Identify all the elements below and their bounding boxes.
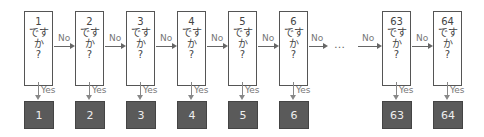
ellipsis: …	[334, 38, 347, 51]
question-text: 64	[441, 16, 454, 27]
yes-connector	[38, 82, 39, 96]
question-text: ?	[445, 49, 450, 60]
question-box: 5ですか?	[228, 11, 257, 86]
yes-connector	[447, 82, 448, 96]
no-label: No	[416, 33, 428, 43]
yes-connector	[140, 82, 141, 96]
yes-label: Yes	[245, 85, 260, 95]
yes-label: Yes	[41, 85, 56, 95]
question-text: です	[131, 27, 151, 38]
question-text: ?	[138, 49, 143, 60]
question-text: 1	[35, 16, 41, 27]
question-text: ?	[291, 49, 296, 60]
question-box: 4ですか?	[177, 11, 206, 86]
question-box: 3ですか?	[126, 11, 155, 86]
question-text: です	[80, 27, 100, 38]
arrow-down-icon	[393, 95, 399, 100]
question-text: です	[438, 27, 458, 38]
question-text: 4	[188, 16, 194, 27]
question-text: か	[85, 38, 95, 49]
question-box: 2ですか?	[75, 11, 104, 86]
question-text: ?	[240, 49, 245, 60]
answer-box: 1	[24, 101, 54, 129]
arrow-down-icon	[86, 95, 92, 100]
question-text: か	[289, 38, 299, 49]
question-text: 3	[137, 16, 143, 27]
no-label: No	[311, 33, 323, 43]
yes-label: Yes	[92, 85, 107, 95]
question-text: です	[29, 27, 49, 38]
yes-label: Yes	[450, 85, 465, 95]
question-text: か	[238, 38, 248, 49]
question-text: か	[187, 38, 197, 49]
yes-label: Yes	[399, 85, 414, 95]
answer-box: 5	[228, 101, 258, 129]
no-label: No	[109, 33, 121, 43]
question-text: か	[443, 38, 453, 49]
question-text: です	[387, 27, 407, 38]
question-text: 6	[290, 16, 296, 27]
question-box: 1ですか?	[24, 11, 53, 86]
no-label: No	[262, 33, 274, 43]
question-text: 63	[390, 16, 403, 27]
no-label: No	[160, 33, 172, 43]
question-text: ?	[189, 49, 194, 60]
question-text: か	[34, 38, 44, 49]
yes-connector	[242, 82, 243, 96]
arrow-down-icon	[137, 95, 143, 100]
question-text: です	[233, 27, 253, 38]
question-text: か	[392, 38, 402, 49]
question-text: です	[182, 27, 202, 38]
arrow-down-icon	[188, 95, 194, 100]
arrow-down-icon	[444, 95, 450, 100]
no-label: No	[211, 33, 223, 43]
answer-box: 64	[433, 101, 463, 129]
arrow-down-icon	[239, 95, 245, 100]
question-text: 5	[239, 16, 245, 27]
answer-box: 6	[279, 101, 309, 129]
yes-label: Yes	[194, 85, 209, 95]
answer-box: 4	[177, 101, 207, 129]
no-label: No	[58, 33, 70, 43]
yes-label: Yes	[296, 85, 311, 95]
answer-box: 2	[75, 101, 105, 129]
question-box: 6ですか?	[279, 11, 308, 86]
yes-label: Yes	[143, 85, 158, 95]
no-label: No	[362, 33, 374, 43]
yes-connector	[89, 82, 90, 96]
arrow-right-icon	[323, 43, 328, 49]
question-text: 2	[86, 16, 92, 27]
question-text: ?	[87, 49, 92, 60]
question-box: 64ですか?	[433, 11, 462, 86]
question-text: ?	[394, 49, 399, 60]
yes-connector	[191, 82, 192, 96]
answer-box: 63	[382, 101, 412, 129]
yes-connector	[396, 82, 397, 96]
question-text: か	[136, 38, 146, 49]
arrow-down-icon	[290, 95, 296, 100]
question-text: です	[284, 27, 304, 38]
answer-box: 3	[126, 101, 156, 129]
no-connector	[358, 46, 378, 47]
yes-connector	[293, 82, 294, 96]
arrow-down-icon	[35, 95, 41, 100]
question-box: 63ですか?	[382, 11, 411, 86]
question-text: ?	[36, 49, 41, 60]
